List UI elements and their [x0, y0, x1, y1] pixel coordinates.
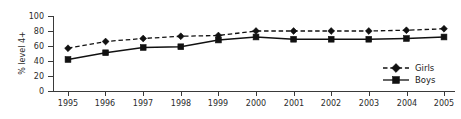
y-tick-label: 0: [39, 87, 44, 96]
square-marker-icon: [328, 36, 334, 42]
square-marker-icon: [441, 34, 447, 40]
square-marker-icon: [291, 36, 297, 42]
legend-label-boys: Boys: [415, 75, 436, 85]
diamond-marker-icon: [365, 28, 372, 35]
y-axis-ticks: [48, 16, 53, 91]
y-tick-label: 40: [34, 57, 44, 66]
x-tick-label: 1998: [171, 99, 191, 108]
x-tick-label: 1997: [133, 99, 153, 108]
x-tick-label: 1996: [95, 99, 115, 108]
diamond-marker-icon: [102, 38, 109, 45]
y-tick-labels: 100 80 60 40 20 0: [29, 12, 44, 96]
diamond-marker-icon: [441, 25, 448, 32]
x-tick-label: 2003: [359, 99, 379, 108]
x-tick-label: 1995: [58, 99, 78, 108]
square-marker-icon: [253, 34, 259, 40]
diamond-marker-icon: [403, 27, 410, 34]
diamond-marker-icon: [253, 28, 260, 35]
diamond-marker-icon: [177, 33, 184, 40]
x-tick-label: 2002: [321, 99, 341, 108]
square-marker-icon: [404, 36, 410, 42]
square-marker-icon: [140, 45, 146, 51]
legend-entry-girls: Girls: [383, 63, 435, 73]
line-chart-canvas: % level 4+ 100 80 60 40 20 0: [0, 0, 461, 119]
diamond-marker-icon: [328, 28, 335, 35]
chart-figure: % level 4+ 100 80 60 40 20 0: [0, 0, 461, 119]
legend-entry-boys: Boys: [383, 75, 436, 85]
x-tick-label: 2004: [397, 99, 417, 108]
diamond-marker-icon: [140, 35, 147, 42]
diamond-marker-icon: [65, 45, 72, 52]
square-marker-icon: [65, 57, 71, 63]
y-tick-label: 20: [34, 72, 44, 81]
x-axis-ticks: [68, 91, 444, 96]
y-tick-label: 100: [29, 12, 44, 21]
square-marker-icon: [216, 37, 222, 43]
chart-legend: Girls Boys: [383, 63, 436, 85]
square-marker-icon: [103, 50, 109, 56]
square-marker-icon: [178, 44, 184, 50]
series-boys: [65, 34, 447, 62]
data-series-layer: [65, 25, 448, 62]
x-tick-label: 2000: [246, 99, 266, 108]
diamond-marker-icon: [392, 64, 401, 73]
y-axis-title: % level 4+: [18, 31, 27, 75]
series-line-boys: [68, 37, 444, 60]
x-tick-label: 1999: [208, 99, 228, 108]
legend-label-girls: Girls: [415, 63, 435, 73]
y-tick-label: 80: [34, 27, 44, 36]
y-tick-label: 60: [34, 42, 44, 51]
square-marker-icon: [366, 36, 372, 42]
diamond-marker-icon: [290, 28, 297, 35]
x-tick-label: 2001: [284, 99, 304, 108]
x-tick-labels: 1995 1996 1997 1998 1999 2000 2001 2002 …: [58, 99, 454, 108]
x-tick-label: 2005: [434, 99, 454, 108]
square-marker-icon: [393, 77, 400, 84]
